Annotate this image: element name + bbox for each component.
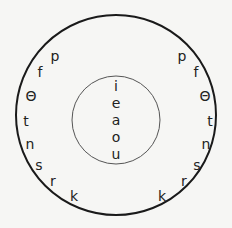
consonant-label: n [202,136,211,152]
consonant-label: p [178,48,187,64]
consonant-label: r [50,173,56,189]
consonant-label: s [35,157,42,173]
consonant-label: k [158,188,167,204]
vowel-label: a [112,112,121,128]
vowel-group: ieaou [112,78,121,162]
consonant-label: Θ [199,88,210,104]
vowel-label: o [112,129,121,145]
consonant-label: t [23,113,29,129]
left-consonant-group: pfΘtnsrk [23,48,79,204]
phoneme-circle-diagram: ieaou pfΘtnsrk pfΘtnsrk [0,0,232,228]
consonant-label: t [207,113,213,129]
consonant-label: k [70,188,79,204]
vowel-label: e [112,95,121,111]
consonant-label: f [38,64,44,80]
consonant-label: Θ [25,88,36,104]
consonant-label: r [181,173,187,189]
consonant-label: s [193,157,200,173]
vowel-label: i [114,78,118,94]
consonant-label: p [51,48,60,64]
consonant-label: n [26,136,35,152]
consonant-label: f [194,64,200,80]
vowel-label: u [112,146,121,162]
